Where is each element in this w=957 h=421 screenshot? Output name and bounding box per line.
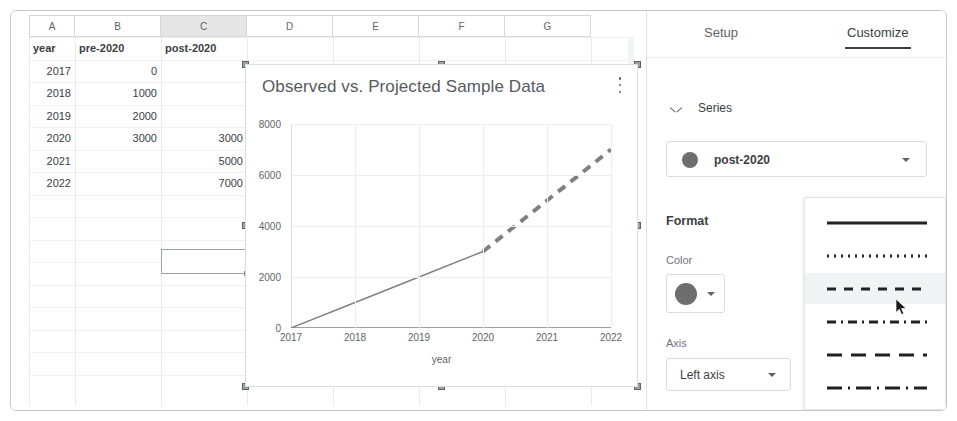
cell-c6[interactable]: 5000: [161, 155, 243, 167]
axis-select-value: Left axis: [680, 368, 725, 382]
axis-select[interactable]: Left axis: [666, 358, 791, 391]
line-style-option-long-dash[interactable]: [805, 339, 945, 370]
gridline-horizontal: [291, 277, 611, 278]
x-axis-tick-label: 2019: [408, 332, 430, 343]
grid-row-line: [29, 37, 629, 38]
cell-a3[interactable]: 2018: [33, 87, 71, 99]
chart-canvas[interactable]: Observed vs. Projected Sample Data 02000…: [245, 64, 638, 387]
series-color-swatch: [682, 152, 698, 168]
cell-b3[interactable]: 1000: [75, 87, 157, 99]
gridline-horizontal: [291, 124, 611, 125]
column-header-e[interactable]: E: [333, 15, 419, 37]
cell-a2[interactable]: 2017: [33, 65, 71, 77]
gridline-vertical: [547, 124, 548, 328]
cell-c1[interactable]: post-2020: [165, 42, 243, 54]
cell-a4[interactable]: 2019: [33, 110, 71, 122]
color-label: Color: [666, 254, 692, 266]
tab-setup[interactable]: Setup: [704, 25, 738, 40]
column-header-f[interactable]: F: [419, 15, 505, 37]
line-style-preview-long-dash-dot: [805, 372, 945, 403]
chart-title: Observed vs. Projected Sample Data: [262, 77, 545, 97]
line-style-menu[interactable]: [804, 197, 946, 410]
column-header-d[interactable]: D: [247, 15, 333, 37]
series-select[interactable]: post-2020: [666, 141, 927, 177]
line-style-option-solid[interactable]: [805, 207, 945, 238]
section-header-series[interactable]: Series: [698, 101, 732, 115]
selected-cell[interactable]: [161, 249, 247, 274]
column-header-g[interactable]: G: [505, 15, 591, 37]
column-header-row: ABCDEFG: [29, 15, 591, 37]
app-frame: ABCDEFG yearpre-2020post-202020170201810…: [10, 10, 947, 411]
line-style-option-long-dash-dot[interactable]: [805, 372, 945, 403]
chevron-down-icon[interactable]: [902, 158, 910, 162]
line-style-option-dotted[interactable]: [805, 240, 945, 271]
cell-b5[interactable]: 3000: [75, 132, 157, 144]
gridline-vertical: [483, 124, 484, 328]
cell-b1[interactable]: pre-2020: [79, 42, 157, 54]
cell-c5[interactable]: 3000: [161, 132, 243, 144]
y-axis-tick-label: 4000: [221, 221, 281, 232]
tabs-separator: [647, 57, 946, 58]
chevron-down-icon[interactable]: [707, 292, 715, 296]
grid-column-line: [29, 37, 30, 406]
line-style-option-dash-dot[interactable]: [805, 306, 945, 337]
grid-column-line: [161, 37, 162, 406]
gridline-horizontal: [291, 226, 611, 227]
x-axis-tick-label: 2018: [344, 332, 366, 343]
y-axis-tick-label: 8000: [221, 119, 281, 130]
x-axis-title: year: [246, 354, 637, 365]
x-axis-tick-label: 2020: [472, 332, 494, 343]
chart-object[interactable]: Observed vs. Projected Sample Data 02000…: [242, 61, 641, 390]
x-axis-tick-label: 2022: [600, 332, 622, 343]
y-axis-tick-label: 2000: [221, 272, 281, 283]
column-header-a[interactable]: A: [29, 15, 75, 37]
cell-a5[interactable]: 2020: [33, 132, 71, 144]
x-axis-tick-label: 2017: [280, 332, 302, 343]
line-style-preview-dotted: [805, 240, 945, 271]
panel-tabs: Setup Customize: [647, 11, 946, 57]
column-header-b[interactable]: B: [75, 15, 161, 37]
color-swatch: [675, 283, 697, 305]
color-picker[interactable]: [666, 274, 725, 313]
chart-plot-area: 0200040006000800020172018201920202021202…: [291, 124, 611, 328]
format-heading: Format: [666, 214, 708, 228]
line-style-option-dashed[interactable]: [805, 273, 945, 304]
x-axis-tick-label: 2021: [536, 332, 558, 343]
tab-active-underline: [845, 47, 911, 49]
line-style-preview-long-dash: [805, 339, 945, 370]
tab-customize[interactable]: Customize: [847, 25, 908, 40]
line-style-preview-dashed: [805, 273, 945, 304]
column-header-c[interactable]: C: [161, 15, 247, 37]
cell-a7[interactable]: 2022: [33, 177, 71, 189]
cell-a1[interactable]: year: [33, 42, 71, 54]
y-axis-tick-label: 0: [221, 323, 281, 334]
series-select-value: post-2020: [714, 153, 770, 167]
chart-editor-panel: Setup Customize Series post-2020 Format …: [647, 11, 946, 410]
axis-label: Axis: [666, 337, 687, 349]
cell-b4[interactable]: 2000: [75, 110, 157, 122]
kebab-menu-icon[interactable]: [613, 75, 627, 95]
chevron-down-icon[interactable]: [670, 104, 681, 115]
chevron-down-icon[interactable]: [768, 373, 776, 377]
mouse-cursor: [896, 299, 907, 316]
series-line-pre-2020: [291, 252, 483, 329]
cell-a6[interactable]: 2021: [33, 155, 71, 167]
line-style-preview-dash-dot: [805, 306, 945, 337]
gridline-vertical: [611, 124, 612, 328]
cell-b2[interactable]: 0: [75, 65, 157, 77]
gridline-horizontal: [291, 175, 611, 176]
gridline-vertical: [419, 124, 420, 328]
line-style-preview-solid: [805, 207, 945, 238]
y-axis-tick-label: 6000: [221, 170, 281, 181]
gridline-vertical: [355, 124, 356, 328]
